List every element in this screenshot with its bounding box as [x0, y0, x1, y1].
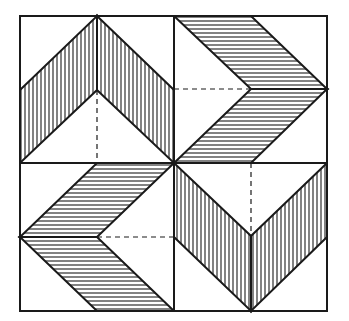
- chevron-band-2: [97, 16, 174, 163]
- chevron-band-1: [20, 163, 174, 237]
- quilt-diagram: [0, 0, 349, 321]
- diagram-canvas: [0, 0, 349, 321]
- chevron-band-2: [20, 237, 174, 311]
- chevron-band-1: [20, 16, 97, 163]
- chevron-band-2: [174, 89, 327, 163]
- chevron-band-1: [174, 163, 251, 311]
- chevron-band-2: [251, 163, 327, 311]
- quadrant-top-left: [20, 16, 174, 163]
- chevron-band-1: [174, 16, 327, 89]
